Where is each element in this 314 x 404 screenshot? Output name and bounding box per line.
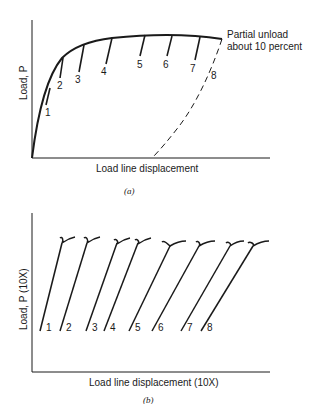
panel-a-label-4: 4: [101, 66, 107, 77]
panel-b-x-label: Load line displacement (10X): [89, 377, 219, 388]
panel-b-loop-7: [181, 241, 244, 331]
panel-b-label-8: 8: [207, 322, 213, 333]
panel-a-label-7: 7: [190, 63, 196, 74]
panel-a-label-5: 5: [137, 59, 143, 70]
panel-a-caption: (a): [124, 186, 135, 196]
panel-b-label-6: 6: [158, 322, 164, 333]
panel-b-y-label: Load, P (10X): [18, 268, 29, 330]
panel-b-loop-4: [104, 238, 151, 331]
panel-a: 1 2 3 4 5 6 7 8 Partial unload about 10 …: [18, 20, 302, 196]
panel-b-loop-6: [152, 241, 215, 331]
panel-a-annotation-line2: about 10 percent: [227, 41, 302, 52]
panel-a-load-curve: [32, 35, 222, 158]
panel-a-unload-3: [79, 45, 84, 72]
panel-a-label-2: 2: [57, 80, 63, 91]
panel-a-x-label: Load line displacement: [96, 163, 199, 174]
panel-b-label-3: 3: [92, 322, 98, 333]
panel-b-label-4: 4: [110, 322, 116, 333]
panel-a-unload-8-dashed: [152, 39, 222, 158]
panel-a-label-8: 8: [211, 70, 217, 81]
panel-b-loop-1: [40, 237, 75, 331]
panel-a-label-6: 6: [163, 59, 169, 70]
panel-a-label-1: 1: [45, 107, 51, 118]
panel-a-unload-4: [106, 38, 112, 64]
panel-b-label-1: 1: [46, 322, 52, 333]
panel-b-label-5: 5: [135, 322, 141, 333]
panel-b-caption: (b): [143, 395, 154, 404]
panel-b-label-2: 2: [66, 322, 72, 333]
figure: 1 2 3 4 5 6 7 8 Partial unload about 10 …: [0, 0, 314, 404]
panel-a-unload-5: [140, 35, 145, 56]
panel-b-loop-2: [60, 237, 100, 331]
panel-b-label-7: 7: [187, 322, 193, 333]
panel-a-unload-6: [167, 36, 172, 56]
panel-a-label-3: 3: [75, 74, 81, 85]
panel-a-unload-7: [195, 37, 200, 60]
panel-b-loop-3: [86, 238, 130, 331]
panel-a-y-label: Load, P: [18, 65, 29, 100]
panel-a-annotation-line1: Partial unload: [227, 29, 288, 40]
panel-b-loop-8: [201, 241, 269, 331]
panel-b: 1 2 3 4 5 6 7 8 Load, P (10X) Load line …: [18, 213, 270, 404]
